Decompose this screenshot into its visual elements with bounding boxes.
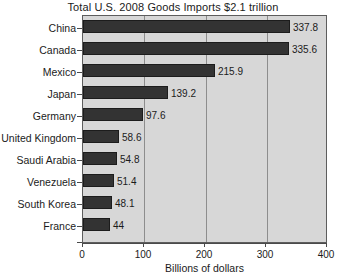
bar-chart: Total U.S. 2008 Goods Imports $2.1 trill… — [0, 0, 346, 274]
y-tick-france — [77, 226, 82, 227]
category-label-china: China — [0, 22, 76, 35]
bar-value-france: 44 — [113, 219, 124, 232]
bar-saudi-arabia[interactable] — [83, 152, 117, 165]
bar-value-venezuela: 51.4 — [117, 175, 136, 188]
x-tick-label-100: 100 — [123, 249, 163, 261]
x-tick-label-0: 0 — [62, 249, 102, 261]
x-tick-label-300: 300 — [245, 249, 285, 261]
chart-title: Total U.S. 2008 Goods Imports $2.1 trill… — [0, 1, 346, 14]
y-tick-canada — [77, 50, 82, 51]
bar-value-saudi-arabia: 54.8 — [120, 153, 139, 166]
category-label-saudi-arabia: Saudi Arabia — [0, 154, 76, 167]
x-tick-label-400: 400 — [306, 249, 346, 261]
y-tick-mexico — [77, 72, 82, 73]
bar-united-kingdom[interactable] — [83, 130, 119, 143]
bar-value-germany: 97.6 — [146, 109, 165, 122]
x-axis-title: Billions of dollars — [82, 262, 327, 274]
category-label-france: France — [0, 220, 76, 233]
category-label-mexico: Mexico — [0, 66, 76, 79]
bar-value-japan: 139.2 — [171, 87, 196, 100]
bar-canada[interactable] — [83, 42, 289, 55]
x-tick-400 — [326, 243, 327, 247]
y-tick-venezuela — [77, 182, 82, 183]
y-tick-united-kingdom — [77, 138, 82, 139]
bar-south-korea[interactable] — [83, 196, 112, 209]
bar-venezuela[interactable] — [83, 174, 114, 187]
bar-mexico[interactable] — [83, 64, 215, 77]
x-tick-0 — [82, 243, 83, 247]
bar-japan[interactable] — [83, 86, 168, 99]
x-tick-200 — [204, 243, 205, 247]
x-tick-300 — [265, 243, 266, 247]
bar-germany[interactable] — [83, 108, 143, 121]
x-tick-100 — [143, 243, 144, 247]
bar-france[interactable] — [83, 218, 110, 231]
category-label-south-korea: South Korea — [0, 198, 76, 211]
bar-china[interactable] — [83, 20, 290, 33]
y-tick-south-korea — [77, 204, 82, 205]
bar-value-mexico: 215.9 — [218, 65, 243, 78]
y-tick-japan — [77, 94, 82, 95]
category-label-germany: Germany — [0, 110, 76, 123]
category-label-japan: Japan — [0, 88, 76, 101]
category-label-canada: Canada — [0, 44, 76, 57]
x-tick-label-200: 200 — [184, 249, 224, 261]
y-tick-china — [77, 28, 82, 29]
bar-value-china: 337.8 — [293, 21, 318, 34]
category-label-venezuela: Venezuela — [0, 176, 76, 189]
category-label-united-kingdom: United Kingdom — [0, 132, 76, 145]
y-tick-saudi-arabia — [77, 160, 82, 161]
bar-value-south-korea: 48.1 — [115, 197, 134, 210]
y-tick-germany — [77, 116, 82, 117]
bar-value-canada: 335.6 — [292, 43, 317, 56]
bar-value-united-kingdom: 58.6 — [122, 131, 141, 144]
